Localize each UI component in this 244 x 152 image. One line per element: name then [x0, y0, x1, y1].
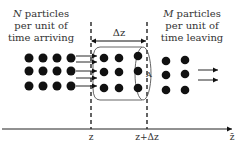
- axis-label-z: z̄: [230, 132, 235, 142]
- particle-flux-diagram: N particles per unit of time arriving M …: [0, 0, 244, 152]
- arriving-line2: per unit of: [14, 20, 69, 31]
- incoming-arrows: [76, 56, 97, 86]
- m-variable: M: [162, 8, 174, 19]
- leaving-line3: time leaving: [161, 32, 224, 43]
- tick-z: z: [89, 132, 94, 142]
- incoming-particles: [25, 54, 76, 91]
- tick-z-plus-dz: z+Δz: [135, 132, 159, 142]
- area-label: A: [145, 70, 152, 79]
- delta-z-label: Δz: [113, 27, 126, 38]
- leaving-label: M particles per unit of time leaving: [161, 8, 224, 43]
- svg-text:N particles: N particles: [12, 8, 69, 19]
- arriving-line1-rest: particles: [22, 8, 69, 19]
- outgoing-arrows: [198, 70, 218, 80]
- contained-particles: [100, 52, 143, 93]
- arriving-line3: time arriving: [8, 32, 75, 43]
- leaving-line1-rest: particles: [173, 8, 220, 19]
- svg-text:M particles: M particles: [162, 8, 221, 19]
- arriving-label: N particles per unit of time arriving: [8, 8, 75, 43]
- outgoing-particles: [162, 56, 190, 95]
- leaving-line2: per unit of: [165, 20, 220, 31]
